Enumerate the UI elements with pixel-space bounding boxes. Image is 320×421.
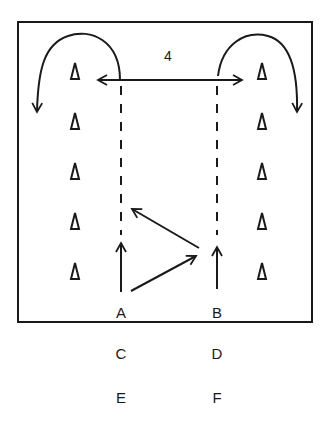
cone-icon — [71, 63, 79, 79]
curl-left — [37, 34, 120, 112]
curl-right — [218, 35, 297, 112]
cone-icon — [71, 113, 79, 129]
distance-label: 4 — [164, 49, 172, 63]
cone-icon — [71, 213, 79, 229]
cone-icon — [258, 163, 266, 179]
player-label-b: B — [212, 305, 222, 320]
cone-icon — [258, 213, 266, 229]
pass-B-to-A — [132, 209, 199, 248]
pass-A-to-B — [131, 256, 196, 291]
player-label-c: C — [116, 346, 127, 361]
cone-icon — [258, 263, 266, 279]
player-label-d: D — [212, 346, 223, 361]
player-label-f: F — [212, 390, 221, 405]
drill-diagram — [0, 0, 320, 421]
cones-left — [71, 63, 79, 279]
cones-right — [258, 63, 266, 279]
player-label-a: A — [116, 305, 126, 320]
cone-icon — [71, 263, 79, 279]
field-boundary — [18, 22, 312, 322]
player-label-e: E — [116, 390, 126, 405]
cone-icon — [258, 63, 266, 79]
cone-icon — [71, 163, 79, 179]
cone-icon — [258, 113, 266, 129]
